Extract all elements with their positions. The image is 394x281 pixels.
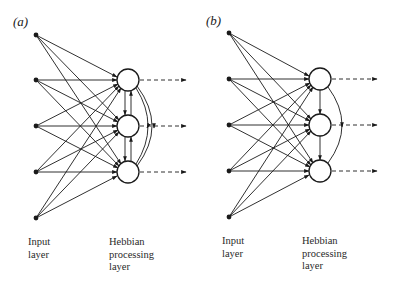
input-layer-label-a: Input layer	[28, 236, 50, 261]
input-node-b-4	[227, 169, 232, 174]
input-nodes-b	[227, 31, 232, 220]
input-node-b-5	[227, 215, 232, 220]
processing-layer-label-a: Hebbian processing layer	[109, 236, 154, 274]
processing-neurons-b	[309, 68, 331, 182]
panel-a	[34, 33, 186, 221]
output-arrows-b	[332, 79, 377, 171]
neuron-a-3	[117, 161, 139, 183]
feedforward-connections-b	[229, 33, 313, 217]
neuron-b-1	[309, 68, 331, 90]
neuron-b-2	[309, 114, 331, 136]
input-node-a-4	[34, 170, 39, 175]
processing-neurons-a	[117, 69, 139, 183]
processing-layer-label-b: Hebbian processing layer	[302, 235, 347, 273]
input-node-a-5	[34, 216, 39, 221]
input-node-a-1	[34, 33, 39, 38]
output-arrows-a	[140, 80, 186, 172]
neuron-a-2	[117, 115, 139, 137]
input-layer-label-b: Input layer	[222, 235, 244, 260]
feedforward-connections-a	[36, 35, 121, 218]
panel-b	[227, 31, 377, 220]
input-node-a-3	[34, 124, 39, 129]
input-node-b-2	[227, 77, 232, 82]
panel-label-a: (a)	[13, 15, 28, 28]
panel-label-b: (b)	[206, 14, 221, 27]
neuron-a-1	[117, 69, 139, 91]
neuron-b-3	[309, 160, 331, 182]
input-node-b-3	[227, 123, 232, 128]
input-nodes-a	[34, 33, 39, 221]
input-node-a-2	[34, 78, 39, 83]
input-node-b-1	[227, 31, 232, 36]
